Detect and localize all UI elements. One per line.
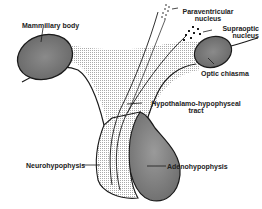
adenohypophysis (128, 112, 180, 201)
mammillary-body (12, 27, 79, 86)
label-paraventricular-line2: nucleus (195, 15, 221, 22)
paraventricular-nucleus-dots (161, 4, 170, 20)
label-paraventricular-line1: Paraventricular (183, 8, 234, 15)
label-tract-line1: Hypothalamo-hypophyseal (151, 100, 240, 107)
label-supraoptic-line1: Supraoptic (222, 25, 259, 32)
label-mammillary-body: Mammillary body (22, 22, 79, 29)
label-supraoptic-line2: nucleus (233, 32, 259, 39)
label-adenohypophysis: Adenohypophysis (167, 163, 228, 170)
label-paraventricular: Paraventricularnucleus (176, 8, 240, 22)
supraoptic-nucleus-dots (183, 26, 201, 41)
label-tract-line2: tract (188, 107, 203, 114)
label-supraoptic: Supraopticnucleus (213, 25, 259, 39)
label-tract: Hypothalamo-hypophysealtract (141, 100, 251, 114)
label-neurohypophysis: Neurohypophysis (26, 162, 85, 169)
label-optic-chiasma: Optic chiasma (201, 70, 249, 77)
